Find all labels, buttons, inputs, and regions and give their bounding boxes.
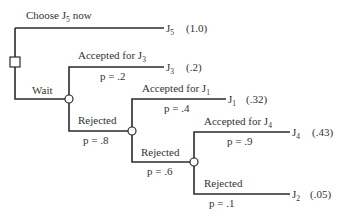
accept-j3-prob: p = .2 xyxy=(100,70,125,82)
value-j4: (.43) xyxy=(312,126,333,139)
value-j1: (.32) xyxy=(246,93,267,106)
value-j3: (.2) xyxy=(186,61,202,74)
reject-1-prob: p = .8 xyxy=(83,134,109,146)
choose-now-label: Choose J5now xyxy=(26,9,92,24)
reject-1-label: Rejected xyxy=(78,114,117,126)
chance-node-3 xyxy=(190,158,198,166)
value-j5: (1.0) xyxy=(186,22,207,35)
value-j2: (.05) xyxy=(310,188,331,201)
wait-label: Wait xyxy=(32,84,53,96)
accept-j3-label: Accepted for J3 xyxy=(78,49,146,64)
outcome-j1: J1 xyxy=(228,93,236,108)
accept-j4-prob: p = .9 xyxy=(227,135,253,147)
outcome-j3: J3 xyxy=(166,61,174,76)
accept-j1-prob: p = .4 xyxy=(164,102,190,114)
outcome-j2: J2 xyxy=(292,188,300,203)
reject-3-prob: p = .1 xyxy=(209,197,234,209)
chance-node-1 xyxy=(65,95,73,103)
decision-node-square xyxy=(10,57,20,67)
outcome-j5: J5 xyxy=(166,22,174,37)
chance-node-2 xyxy=(128,127,136,135)
reject-2-label: Rejected xyxy=(141,146,180,158)
reject-3-label: Rejected xyxy=(204,177,243,189)
decision-tree-diagram: Choose J5now J5 (1.0) Wait Accepted for … xyxy=(0,0,346,222)
accept-j1-label: Accepted for J1 xyxy=(142,82,210,97)
reject-2-prob: p = .6 xyxy=(147,165,173,177)
outcome-j4: J4 xyxy=(292,126,300,141)
accept-j4-label: Accepted for J4 xyxy=(204,115,272,130)
